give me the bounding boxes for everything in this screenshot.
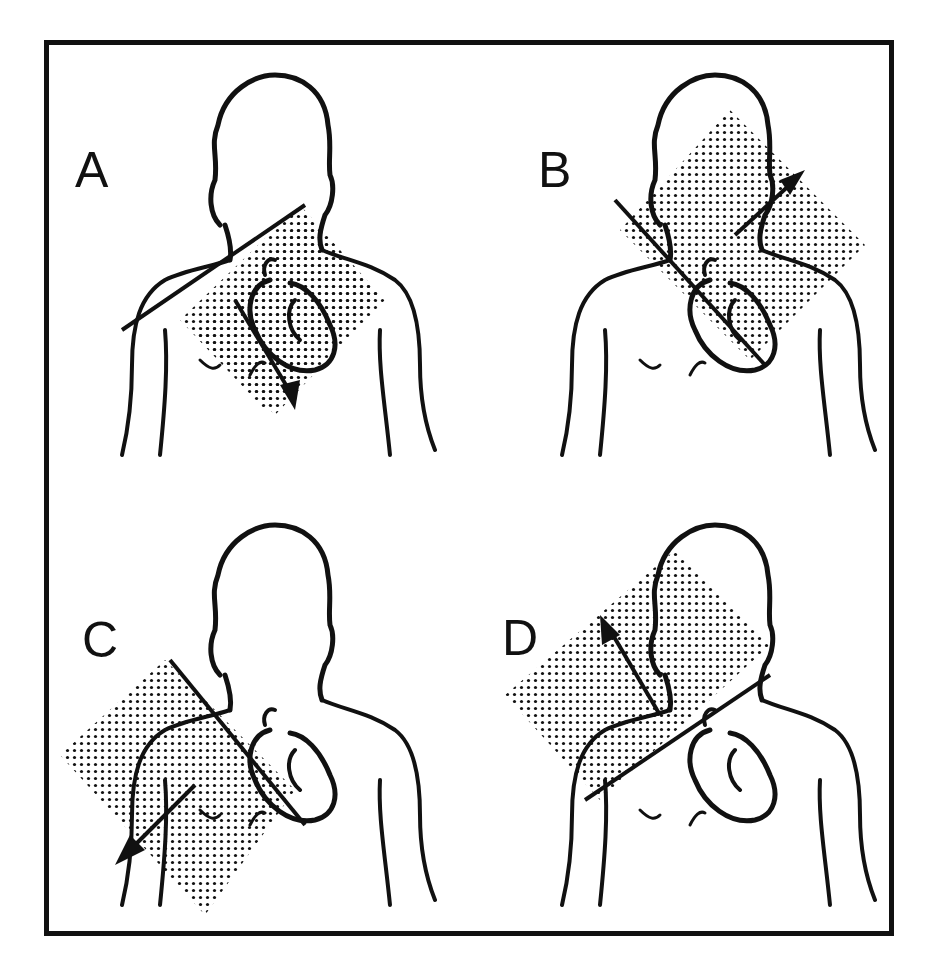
torso-illustration-c <box>50 495 490 935</box>
panel-a: A <box>50 45 490 485</box>
torso-illustration-a <box>50 45 490 485</box>
panel-label-c: C <box>82 615 118 665</box>
panel-b: B <box>490 45 928 485</box>
panel-d: D <box>490 495 928 935</box>
panel-label-a: A <box>75 145 108 195</box>
panel-label-b: B <box>538 145 571 195</box>
panel-c: C <box>50 495 490 935</box>
torso-illustration-d <box>490 495 928 935</box>
panel-label-d: D <box>502 613 538 663</box>
torso-illustration-b <box>490 45 928 485</box>
